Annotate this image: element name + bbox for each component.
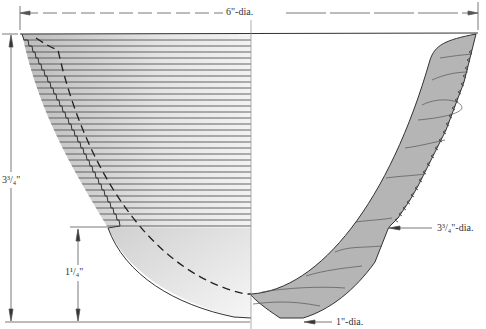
foot-diameter-label: 1"-dia.: [336, 316, 363, 327]
lower-height-label: 1¹/₄": [65, 266, 83, 277]
bowl-diagram: [0, 0, 486, 329]
wall-cross-section: [251, 34, 476, 318]
rim-line: [20, 33, 478, 34]
top-diameter-label: 6"-dia.: [226, 6, 253, 17]
foot-diameter-arrow: [304, 320, 332, 324]
lower-exterior: [108, 228, 251, 318]
mid-diameter-label: 3³/₄"-dia.: [437, 222, 473, 233]
overall-height-label: 3³/₄": [2, 174, 20, 185]
exterior-rings: [20, 34, 251, 228]
mid-diameter-arrow: [389, 226, 432, 230]
